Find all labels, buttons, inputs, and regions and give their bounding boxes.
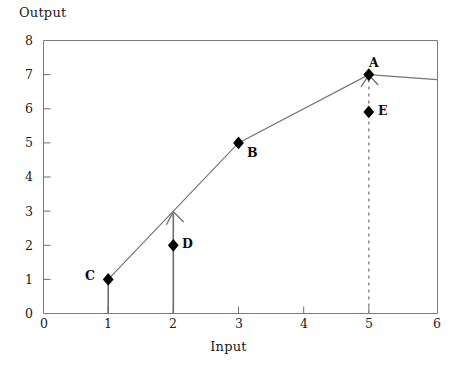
x-tick-marks <box>108 307 369 314</box>
point-label-e: E <box>378 103 388 118</box>
y-tick-label-1: 1 <box>22 272 36 287</box>
x-tick-label-2: 2 <box>165 316 181 331</box>
marker-point-e[interactable] <box>363 106 374 119</box>
y-tick-marks <box>44 75 51 280</box>
y-tick-label-4: 4 <box>22 169 36 184</box>
plot-border <box>44 41 438 314</box>
arrow-at-2 <box>166 212 183 314</box>
chart-figure: Output Input <box>0 0 457 372</box>
data-point-markers <box>103 68 374 286</box>
y-tick-label-8: 8 <box>22 33 36 48</box>
x-tick-label-6: 6 <box>429 316 445 331</box>
point-label-b: B <box>247 145 258 160</box>
point-label-c: C <box>85 268 95 283</box>
y-tick-label-0: 0 <box>22 306 36 321</box>
y-tick-label-7: 7 <box>22 67 36 82</box>
point-label-a: A <box>369 55 379 70</box>
marker-point-d[interactable] <box>168 239 179 252</box>
y-tick-label-2: 2 <box>22 238 36 253</box>
x-tick-label-4: 4 <box>296 316 312 331</box>
x-tick-label-0: 0 <box>36 316 52 331</box>
x-tick-label-1: 1 <box>100 316 116 331</box>
y-tick-label-5: 5 <box>22 135 36 150</box>
output-curve <box>108 75 437 280</box>
x-tick-label-5: 5 <box>361 316 377 331</box>
point-label-d: D <box>182 236 193 251</box>
y-tick-label-6: 6 <box>22 101 36 116</box>
chart-canvas <box>0 0 457 372</box>
axis-frame <box>44 41 438 314</box>
x-tick-label-3: 3 <box>231 316 247 331</box>
y-tick-label-3: 3 <box>22 204 36 219</box>
